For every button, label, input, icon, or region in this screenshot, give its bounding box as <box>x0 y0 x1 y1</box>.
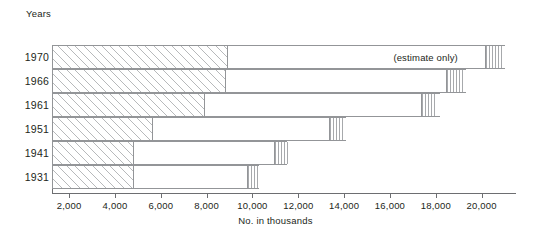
y-tick-label-1931: 1931 <box>3 171 49 183</box>
x-tick-label-16000: 16,000 <box>375 200 405 211</box>
plot-area: (estimate only) <box>52 45 516 193</box>
x-tick-mark-10000 <box>252 194 253 198</box>
x-tick-mark-6000 <box>161 194 162 198</box>
bar-segment-diagonal-1961 <box>53 94 205 116</box>
bar-1941[interactable] <box>52 141 287 165</box>
bar-segment-vertical-1931 <box>247 166 261 188</box>
y-tick-label-1966: 1966 <box>3 75 49 87</box>
y-tick-label-1951: 1951 <box>3 123 49 135</box>
bar-segment-diagonal-1951 <box>53 118 153 140</box>
x-tick-mark-8000 <box>207 194 208 198</box>
bar-row-1941[interactable] <box>52 141 287 165</box>
horizontal-bar-chart: Years 1970 1966 1961 1951 1941 1931 (est… <box>0 0 540 247</box>
bar-row-1966[interactable] <box>52 69 466 93</box>
x-tick-label-6000: 6,000 <box>148 200 173 211</box>
x-tick-mark-16000 <box>390 194 391 198</box>
y-tick-label-1941: 1941 <box>3 147 49 159</box>
bar-row-1961[interactable] <box>52 93 440 117</box>
bar-segment-vertical-1951 <box>329 118 347 140</box>
x-tick-label-4000: 4,000 <box>103 200 128 211</box>
bar-1966[interactable] <box>52 69 466 93</box>
bar-row-1951[interactable] <box>52 117 346 141</box>
bar-1951[interactable] <box>52 117 346 141</box>
x-axis-group: 2,000 4,000 6,000 8,000 10,000 12,000 14… <box>0 194 540 224</box>
x-tick-label-2000: 2,000 <box>57 200 82 211</box>
y-tick-label-1961: 1961 <box>3 99 49 111</box>
bar-segment-diagonal-1931 <box>53 166 134 188</box>
y-tick-label-group: 1970 1966 1961 1951 1941 1931 <box>0 45 49 193</box>
bar-1970[interactable]: (estimate only) <box>52 45 505 69</box>
x-tick-label-14000: 14,000 <box>329 200 359 211</box>
x-tick-mark-20000 <box>482 194 483 198</box>
bar-segment-vertical-1966 <box>446 70 467 92</box>
bar-segment-diagonal-1966 <box>53 70 226 92</box>
x-tick-mark-18000 <box>436 194 437 198</box>
x-axis-title: No. in thousands <box>238 215 313 226</box>
bar-segment-diagonal-1941 <box>53 142 134 164</box>
bar-annotation-1970: (estimate only) <box>393 52 458 63</box>
y-axis-title: Years <box>26 8 51 19</box>
x-tick-mark-12000 <box>298 194 299 198</box>
x-tick-mark-2000 <box>69 194 70 198</box>
x-tick-mark-4000 <box>115 194 116 198</box>
bar-segment-diagonal-1970 <box>53 46 228 68</box>
bar-segment-vertical-1970 <box>485 46 506 68</box>
y-tick-label-1970: 1970 <box>3 51 49 63</box>
x-tick-label-20000: 20,000 <box>466 200 496 211</box>
x-tick-label-10000: 10,000 <box>237 200 267 211</box>
bar-1961[interactable] <box>52 93 440 117</box>
bar-segment-vertical-1961 <box>421 94 442 116</box>
x-tick-label-12000: 12,000 <box>283 200 313 211</box>
bar-row-1970[interactable]: (estimate only) <box>52 45 505 69</box>
x-tick-label-8000: 8,000 <box>194 200 219 211</box>
bar-segment-vertical-1941 <box>274 142 288 164</box>
bar-1931[interactable] <box>52 165 259 189</box>
x-tick-mark-14000 <box>344 194 345 198</box>
x-tick-label-18000: 18,000 <box>421 200 451 211</box>
bar-row-1931[interactable] <box>52 165 259 189</box>
